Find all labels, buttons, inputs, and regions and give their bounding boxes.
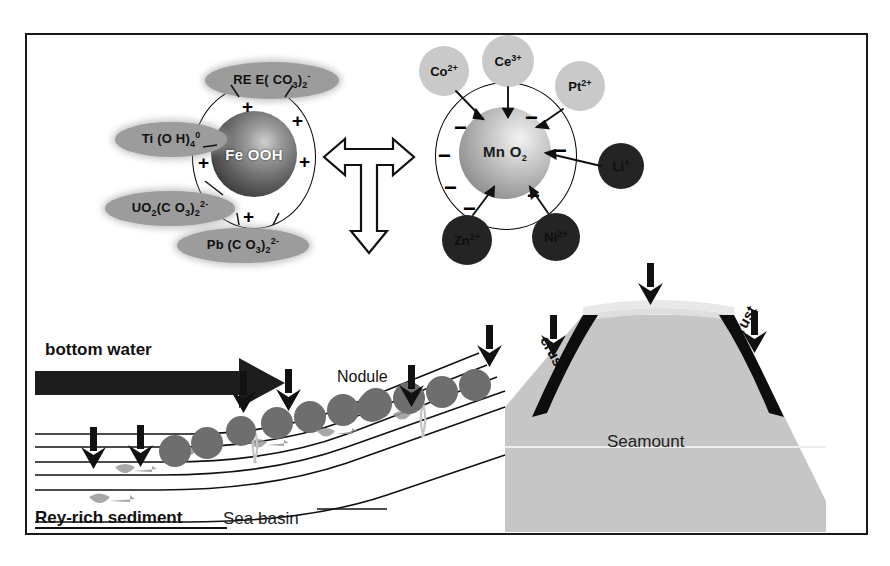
species-co-bubble: Co2+	[419, 46, 469, 96]
exchange-tee-arrow	[324, 139, 414, 253]
species-zn-label: Zn2+	[454, 232, 480, 248]
nodule-row	[159, 369, 491, 467]
bottom-water-label: bottom water	[45, 340, 152, 360]
mn-charge-minus-l: −	[438, 145, 451, 167]
fe-charge-plus-tr: +	[292, 111, 303, 130]
species-ce-bubble: Ce3+	[482, 35, 534, 87]
mn-charge-minus-tl: −	[454, 117, 467, 139]
species-uo2-label: UO2(C O3)22-	[132, 199, 209, 218]
fe-ooh-core-label: Fe OOH	[211, 146, 297, 163]
crust-label-left: crust	[537, 333, 570, 373]
mn-o2-core-label: Mn O2	[459, 143, 551, 163]
crust-label-right: crust	[727, 303, 760, 343]
figure-border: Fe OOH + + + + + RE E( CO3)2- Ti (O H)40…	[25, 33, 868, 535]
sea-basin-label: Sea basin	[223, 509, 299, 529]
species-ni-bubble: Ni2+	[532, 213, 580, 261]
species-li-bubble: Li+	[598, 143, 644, 189]
sediment-label: Rey-rich sediment	[35, 508, 182, 528]
fe-ooh-core: Fe OOH	[211, 111, 297, 197]
species-uo2-ellipse: UO2(C O3)22-	[105, 191, 235, 226]
species-pb-label: Pb (C O3)22-	[207, 236, 279, 255]
bioturbation-marks	[89, 411, 411, 503]
species-pt-bubble: Pt2+	[555, 61, 605, 111]
species-ree-label: RE E( CO3)2-	[233, 71, 311, 90]
mn-charge-minus-tr: −	[525, 107, 538, 129]
mn-charge-minus-r: −	[554, 140, 567, 162]
mn-charge-minus-bl: −	[444, 177, 457, 199]
fe-charge-plus-left: +	[198, 153, 209, 172]
nodule-label: Nodule	[337, 368, 388, 386]
species-ce-label: Ce3+	[495, 53, 522, 69]
species-ni-label: Ni2+	[544, 229, 567, 245]
species-pb-ellipse: Pb (C O3)22-	[177, 228, 309, 263]
bottom-water-arrow	[35, 358, 285, 408]
species-zn-bubble: Zn2+	[442, 215, 492, 265]
figure-canvas: Fe OOH + + + + + RE E( CO3)2- Ti (O H)40…	[0, 0, 890, 566]
diagram-vector-layer	[27, 35, 866, 533]
fe-charge-plus-bottom: +	[243, 207, 254, 226]
sediment-strata	[35, 353, 505, 522]
fe-charge-plus-right: +	[299, 152, 310, 171]
upwelling-plumes	[253, 403, 426, 463]
species-ti-ellipse: Ti (O H)40	[115, 122, 227, 157]
species-ti-label: Ti (O H)40	[142, 130, 201, 149]
seamount-label: Seamount	[607, 432, 685, 452]
species-co-label: Co2+	[430, 63, 458, 79]
species-pt-label: Pt2+	[568, 78, 591, 94]
mn-charge-minus-br: −	[527, 185, 540, 207]
species-li-label: Li+	[613, 158, 630, 174]
species-ree-ellipse: RE E( CO3)2-	[205, 62, 339, 99]
fe-charge-plus-top: +	[242, 97, 253, 116]
